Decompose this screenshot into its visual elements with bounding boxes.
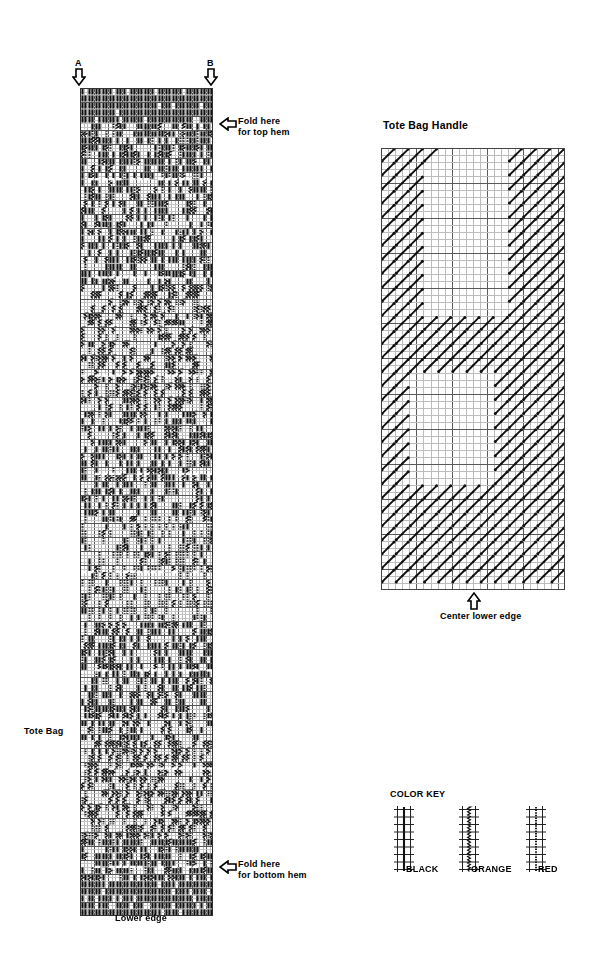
marker-b-arrow-icon — [204, 68, 218, 90]
orange-symbol-icon — [458, 806, 480, 872]
tote-bag-chart — [80, 88, 213, 916]
tote-bag-chart-canvas — [80, 88, 213, 916]
tote-bag-handle-chart — [381, 148, 565, 590]
lower-edge-label: Lower edge — [115, 913, 167, 924]
color-key-label-red: RED — [538, 864, 558, 875]
red-symbol-icon — [525, 806, 547, 872]
chart-page: A B Fold here for top hem Fold here for … — [0, 0, 607, 972]
tote-bag-handle-chart-canvas — [381, 148, 565, 590]
marker-a-arrow-icon — [72, 68, 86, 90]
black-symbol-icon — [393, 806, 415, 872]
color-key-label-orange: ORANGE — [471, 864, 512, 875]
handle-title: Tote Bag Handle — [383, 120, 468, 131]
color-key-label-black: BLACK — [406, 864, 439, 875]
color-key-title: COLOR KEY — [390, 789, 445, 800]
color-key-swatch-red — [525, 806, 547, 872]
fold-bottom-arrow-icon — [219, 860, 237, 878]
color-key-swatch-black — [393, 806, 415, 872]
center-lower-edge-label: Center lower edge — [440, 611, 521, 622]
fold-bottom-label: Fold here for bottom hem — [238, 859, 307, 881]
fold-top-label: Fold here for top hem — [238, 116, 290, 138]
tote-bag-label: Tote Bag — [24, 726, 63, 737]
color-key-swatch-orange — [458, 806, 480, 872]
fold-top-arrow-icon — [219, 117, 237, 135]
